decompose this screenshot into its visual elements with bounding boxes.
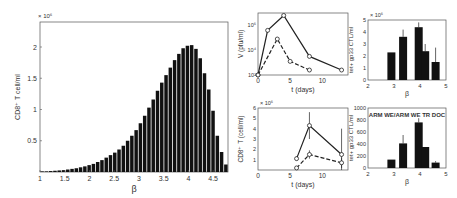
y-tick-label: 5 [363, 17, 366, 23]
y-tick-label: 0.5 [27, 137, 37, 144]
histogram-bar [181, 48, 184, 172]
y-axis-label: CD8⁺ T cell/ml [14, 74, 21, 120]
x-tick-label: 3.5 [159, 175, 169, 182]
y-tick-label: 0 [363, 77, 366, 83]
y-tick-label: 200 [357, 153, 366, 159]
series-line-dashed [297, 155, 342, 168]
bar [432, 62, 440, 80]
x-axis-label: β [405, 90, 409, 98]
y-multiplier: × 10⁶ [260, 100, 273, 106]
histogram-bar [190, 45, 193, 172]
viral-load-panel: 051010²10⁴10⁶t (days)V (pfu/ml) [237, 13, 348, 94]
data-point [266, 28, 270, 32]
histogram-bar [211, 111, 214, 172]
y-tick-label: 10⁴ [248, 47, 257, 53]
x-tick-label: 5 [288, 77, 292, 84]
histogram-bar [66, 170, 69, 173]
x-tick-label: 2 [366, 83, 370, 89]
data-point [307, 153, 311, 157]
histogram-bar [87, 165, 90, 172]
x-tick-label: 2.5 [109, 175, 119, 182]
histogram-bar [117, 150, 120, 173]
y-tick-label: 3 [363, 41, 366, 47]
y-tick-label: 1 [363, 65, 366, 71]
series-line-solid [297, 126, 342, 159]
histogram-bar [177, 54, 180, 172]
histogram-bar [164, 75, 167, 172]
y-tick-label: 1 [253, 157, 256, 163]
x-tick-label: 4 [418, 83, 422, 89]
histogram-bar [83, 166, 86, 172]
bar [432, 163, 440, 168]
histogram-bar [53, 171, 56, 172]
histogram-bar [156, 91, 159, 172]
data-point [340, 161, 344, 165]
y-tick-label: 1.5 [27, 75, 37, 82]
x-tick-label: 5 [444, 171, 448, 177]
y-tick-label: 1000 [354, 105, 366, 111]
data-point [307, 54, 311, 58]
histogram-bar [207, 90, 210, 173]
x-tick-label: 5 [288, 172, 292, 179]
x-tick-label: 4.5 [208, 175, 218, 182]
y-tick-label: 10⁶ [248, 22, 256, 28]
histogram-bar [130, 136, 133, 172]
y-tick-label: 3 [253, 136, 256, 142]
histogram-bar [194, 49, 197, 172]
bar [387, 160, 395, 168]
histogram-bar [40, 171, 43, 172]
data-point [288, 59, 292, 63]
data-point [295, 166, 299, 170]
histogram-bar [169, 68, 172, 172]
y-tick-label: 5 [253, 115, 256, 121]
bar [421, 147, 429, 168]
x-tick-label: 4 [418, 171, 422, 177]
y-tick-label: 6 [253, 105, 256, 111]
histogram-bar [134, 130, 137, 172]
histogram-bar [147, 108, 150, 172]
histogram-bar [220, 152, 223, 172]
y-multiplier: × 10⁶ [38, 13, 53, 19]
histogram-bar [216, 136, 219, 172]
x-tick-label: 10 [319, 172, 327, 179]
histogram-bar [143, 116, 146, 172]
figure: 11.522.533.544.50.511.52× 10⁶βCD8⁺ T cel… [0, 0, 457, 198]
histogram-bar [173, 60, 176, 172]
x-axis-label: β [131, 184, 136, 194]
histogram-bar [75, 168, 78, 172]
x-axis-label: t (days) [291, 86, 314, 94]
y-tick-label: 2 [253, 146, 256, 152]
x-tick-label: 0 [256, 172, 260, 179]
y-multiplier: × 10⁶ [370, 12, 383, 18]
histogram-bar [49, 171, 52, 172]
histogram-bar [151, 100, 154, 173]
histogram-bar [224, 165, 227, 173]
data-point [295, 157, 299, 161]
histogram-bar [92, 164, 95, 172]
y-tick-label: 1 [33, 106, 37, 113]
y-axis-label: V (pfu/ml) [237, 30, 245, 58]
y-tick-label: 2 [33, 44, 37, 51]
histogram-bar [79, 167, 82, 172]
x-tick-label: 3 [392, 83, 396, 89]
y-tick-label: 10² [248, 72, 256, 78]
data-point [340, 68, 344, 72]
tet-bar-top-panel: 2345012345βtet+ gp33 CTL/ml× 10⁶ [348, 12, 448, 98]
x-tick-label: 4 [186, 175, 190, 182]
cd8-timecourse-panel: 0510123456t (days)CD8⁺ T (cell/ml)× 10⁶ [237, 100, 348, 189]
bar [421, 51, 429, 80]
x-tick-label: 1 [38, 175, 42, 182]
y-tick-label: 600 [357, 129, 366, 135]
panel-title: ARM WE/ARM WE TR DOC [369, 112, 446, 118]
bar [399, 37, 407, 80]
y-tick-label: 4 [253, 126, 256, 132]
histogram-panel: 11.522.533.544.50.511.52× 10⁶βCD8⁺ T cel… [14, 13, 228, 194]
y-tick-label: 800 [357, 117, 366, 123]
x-tick-label: 3 [137, 175, 141, 182]
data-point [282, 13, 286, 17]
histogram-bar [70, 169, 73, 172]
data-point [307, 124, 311, 128]
bar [399, 143, 407, 168]
histogram-bar [96, 162, 99, 172]
histogram-bar [198, 58, 201, 172]
